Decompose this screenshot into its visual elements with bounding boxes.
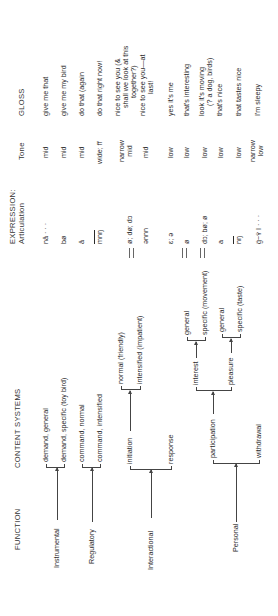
gloss-cell: that tastes nice (235, 68, 243, 116)
bracket-tick (205, 337, 206, 341)
tone-cell: low (167, 147, 175, 158)
bracket-interest (187, 340, 206, 341)
bracket-tick (222, 334, 223, 338)
tone-cell: low (217, 147, 225, 158)
bracket-participation (196, 390, 232, 391)
gloss-line: (? a dog, birds) (206, 58, 214, 116)
gloss-cell: give me that (42, 77, 50, 116)
articulation-cell: ø (183, 240, 191, 244)
gloss-cell: do that (again (78, 72, 86, 116)
header-articulation: Articulation (18, 203, 26, 244)
tone-cell: mid (60, 146, 68, 158)
bracket-tick (46, 464, 47, 468)
articulation-cell: dɔ; bø; ø (201, 216, 209, 244)
content-interest-general: general (183, 311, 191, 335)
articulation-cell: ənnn (142, 228, 150, 244)
gloss-line: together?) (130, 46, 138, 116)
tone-cell: narrow mid (118, 136, 134, 166)
gloss-cell: that's nice (216, 84, 224, 116)
bracket-pleasure (222, 337, 241, 338)
bracket-tick (130, 466, 131, 470)
bracket-tick (187, 337, 188, 341)
articulation-cell: ø; dø; dɔ (126, 216, 134, 244)
bracket-tick (121, 386, 122, 390)
tone-cell: wide; ff (96, 141, 104, 164)
arrow-icon (57, 468, 58, 520)
bracket-tick (259, 460, 260, 464)
tone-cell: mid (78, 146, 86, 158)
gloss-cell: nice to see you—at last! (139, 54, 155, 116)
tone-line: low (257, 136, 265, 166)
content-demand-specific: demand, specific (toy bird) (60, 378, 68, 462)
content-interest-specific: specific (movement) (201, 271, 209, 335)
articulation-cell: mnŋ (96, 230, 104, 244)
double-line-connector (200, 248, 205, 258)
gloss-cell: I'm sleepy (254, 84, 262, 116)
content-normal-friendly: normal (friendly) (117, 332, 125, 384)
header-gloss: GLOSS (18, 88, 26, 116)
bracket-tick (196, 387, 197, 391)
bracket-instrumental (46, 467, 65, 468)
header-tone: Tone (18, 142, 26, 160)
double-line-connector (129, 248, 134, 258)
arrow-icon (92, 468, 93, 522)
content-pleasure-specific: specific (taste) (236, 286, 244, 332)
bracket-tick (82, 464, 83, 468)
bracket-tick (213, 460, 214, 464)
content-response: response (167, 434, 175, 464)
content-command-intensified: command, intensified (96, 394, 104, 462)
tone-line: mid (126, 136, 134, 166)
arrow-icon (196, 342, 197, 358)
header-function: FUNCTION (14, 508, 22, 550)
bracket-tick (100, 464, 101, 468)
function-regulatory: Regulatory (88, 529, 96, 564)
function-personal: Personal (232, 524, 240, 552)
articulation-cell: g̈~ʏ̈ I · · · (255, 215, 263, 244)
bracket-tick (140, 386, 141, 390)
tone-cell: narrow low (249, 136, 265, 166)
header-expression: EXPRESSION: (9, 189, 17, 244)
content-participation: participation (209, 419, 217, 458)
content-command-normal: command, normal (78, 404, 86, 462)
tone-cell: mid (42, 146, 50, 158)
rotated-table-page: FUNCTION CONTENT SYSTEMS EXPRESSION: Art… (0, 0, 278, 616)
gloss-cell: look it's moving (? a dog, birds) (198, 58, 214, 116)
gloss-cell: nice to see you (& shall we look at this… (114, 46, 138, 116)
articulation-cell: nā · · · (42, 223, 50, 244)
content-initiation: initiation (126, 438, 134, 464)
arrow-icon (130, 391, 131, 431)
function-instrumental: Instrumental (53, 528, 61, 568)
gloss-cell: that's interesting (183, 64, 191, 116)
bracket-tick (171, 466, 172, 470)
gloss-cell: yes it's me (167, 82, 175, 116)
tone-cell: low (183, 147, 191, 158)
articulation-cell: nŋ (235, 236, 243, 244)
tone-cell: low (235, 147, 243, 158)
articulation-cell: ɛ; ə (167, 233, 175, 244)
bracket-regulatory (82, 467, 101, 468)
bracket-initiation (121, 389, 141, 390)
arrow-icon (151, 470, 152, 518)
arrow-icon (213, 392, 214, 414)
bracket-interactional (130, 469, 172, 470)
bracket-tick (240, 334, 241, 338)
gloss-line: last! (147, 54, 155, 116)
function-interactional: Interactional (147, 531, 155, 570)
content-interest: interest (192, 361, 200, 385)
content-pleasure-general: general (218, 308, 226, 332)
content-pleasure: pleasure (227, 357, 235, 385)
header-content-systems: CONTENT SYSTEMS (14, 389, 22, 468)
content-withdrawal: withdrawal (255, 424, 263, 458)
double-line-connector (182, 248, 187, 258)
bracket-tick (64, 464, 65, 468)
gloss-cell: do that right now! (96, 61, 104, 116)
tone-cell: low (201, 147, 209, 158)
arrow-icon (231, 339, 232, 353)
gloss-cell: give me my bird (60, 65, 68, 116)
bracket-tick (231, 387, 232, 391)
articulation-cell: a (217, 240, 225, 244)
bracket-personal (213, 463, 260, 464)
tone-cell: mid (142, 146, 150, 158)
content-intensified-impatient: intensified (impatient) (136, 316, 144, 384)
articulation-cell: bø (60, 236, 68, 244)
